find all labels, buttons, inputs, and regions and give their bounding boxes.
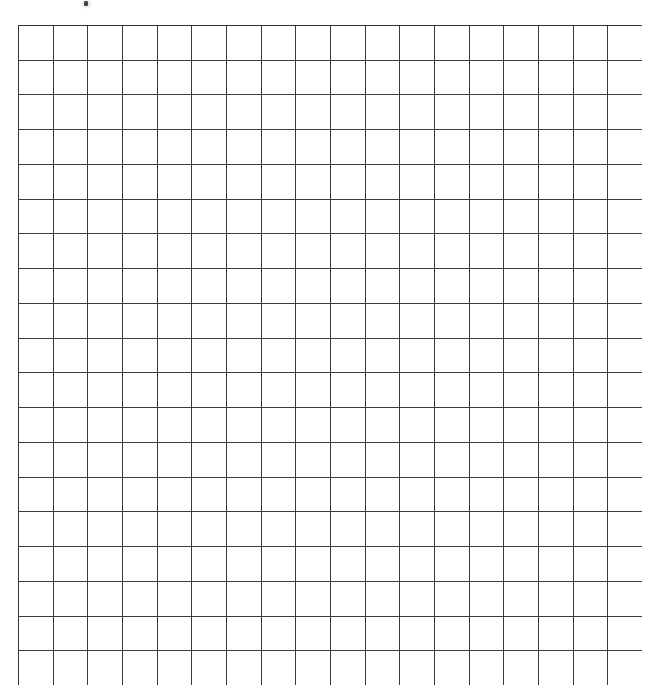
blank-grid[interactable] — [18, 25, 642, 685]
grid-svg[interactable] — [18, 25, 642, 685]
page-canvas — [0, 0, 655, 700]
ink-speck-icon — [84, 1, 88, 6]
